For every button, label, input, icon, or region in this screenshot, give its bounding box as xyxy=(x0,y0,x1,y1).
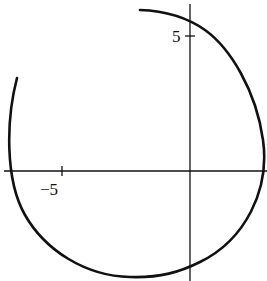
plot-canvas xyxy=(0,0,267,281)
y-tick-label-5: 5 xyxy=(172,28,181,45)
curve-series xyxy=(9,10,264,277)
x-tick-label-minus5: −5 xyxy=(40,181,58,198)
